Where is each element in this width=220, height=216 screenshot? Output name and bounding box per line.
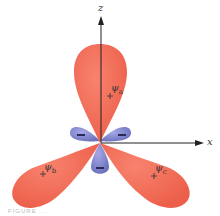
psi-a-label: ψa: [111, 82, 123, 96]
minus-sign-bottom: [96, 167, 104, 169]
orbital-lobe-b: [12, 143, 100, 208]
minus-sign-left: [77, 134, 85, 136]
psi-b-label: ψb: [44, 161, 56, 175]
orbital-lobe-c: [100, 143, 190, 208]
psi-c-label: ψc: [155, 162, 167, 176]
z-axis-label: z: [98, 2, 103, 13]
x-axis-label: x: [207, 136, 213, 147]
figure-caption: FIGURE ...: [8, 208, 47, 214]
orbital-diagram: [0, 0, 220, 216]
minus-sign-right: [118, 134, 126, 136]
